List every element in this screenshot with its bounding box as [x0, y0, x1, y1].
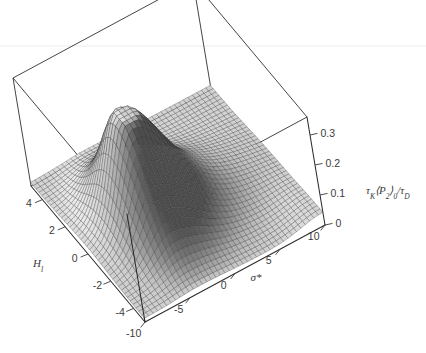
y-tick-label-3: -2	[93, 279, 102, 291]
z-axis-title: τK⟨P2⟩0/τD	[366, 184, 410, 201]
box-top-back-edge	[13, 0, 193, 78]
x-tick-label-0: -10	[126, 327, 141, 339]
y-tick-3	[103, 281, 110, 284]
x-tick-label-2: 0	[221, 279, 227, 291]
y-tick-label-1: 2	[49, 224, 55, 236]
y-tick-4	[126, 308, 133, 311]
y-tick-0	[35, 200, 42, 203]
x-tick-label-1: -5	[174, 303, 183, 315]
y-tick-label-4: -4	[116, 306, 125, 318]
box-left-back-vertical	[13, 78, 31, 186]
x-tick-label-3: 5	[266, 254, 272, 266]
x-axis-title: σ*	[251, 271, 262, 283]
y-tick-2	[81, 254, 88, 257]
z-tick-label-3: 0.3	[321, 127, 336, 139]
z-tick-2	[315, 163, 323, 165]
surface-mesh	[30, 85, 323, 318]
z-tick-0	[325, 223, 333, 225]
z-tick-1	[320, 193, 328, 195]
z-tick-3	[310, 133, 318, 135]
z-tick-label-0: 0	[336, 217, 342, 229]
z-tick-label-1: 0.1	[331, 187, 346, 199]
surface-plot-canvas: -10-50510420-2-400.10.20.3 σ* Hl τK⟨P2⟩0…	[0, 0, 426, 353]
y-tick-label-0: 4	[26, 197, 32, 209]
x-tick-0	[141, 322, 145, 327]
z-tick-label-2: 0.2	[326, 157, 341, 169]
y-tick-1	[58, 227, 65, 230]
y-axis-title: Hl	[32, 257, 44, 274]
surface-plot-figure: -10-50510420-2-400.10.20.3 σ* Hl τK⟨P2⟩0…	[0, 0, 426, 353]
x-tick-label-4: 10	[308, 230, 320, 242]
box-far-vertical	[193, 0, 211, 89]
y-tick-label-2: 0	[72, 252, 78, 264]
